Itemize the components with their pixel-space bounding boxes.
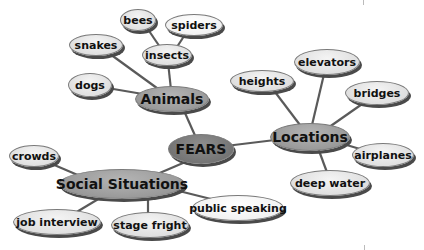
- node-label: crowds: [12, 150, 56, 163]
- node-snakes[interactable]: snakes: [69, 34, 123, 56]
- node-bridges[interactable]: bridges: [345, 81, 409, 105]
- node-fears[interactable]: FEARS: [168, 134, 234, 164]
- node-heights[interactable]: heights: [230, 70, 294, 92]
- node-label: deep water: [295, 177, 365, 190]
- node-label: job interview: [16, 216, 97, 229]
- node-dogs[interactable]: dogs: [68, 73, 112, 97]
- node-label: Social Situations: [56, 176, 188, 192]
- node-label: FEARS: [176, 141, 227, 157]
- node-label: Locations: [272, 129, 348, 145]
- node-label: spiders: [171, 19, 217, 32]
- node-label: stage fright: [113, 219, 186, 232]
- node-crowds[interactable]: crowds: [9, 145, 59, 167]
- node-job-interview[interactable]: job interview: [13, 209, 101, 235]
- node-label: airplanes: [354, 149, 412, 162]
- node-deep-water[interactable]: deep water: [290, 170, 370, 196]
- node-label: snakes: [75, 39, 118, 52]
- crop-mark: [363, 0, 364, 5]
- node-elevators[interactable]: elevators: [294, 49, 360, 75]
- node-airplanes[interactable]: airplanes: [352, 143, 414, 167]
- node-stage-fright[interactable]: stage fright: [111, 212, 189, 238]
- node-label: bees: [123, 14, 152, 27]
- node-label: Animals: [141, 91, 204, 107]
- mind-map-canvas: FEARS Animals Locations Social Situation…: [0, 0, 424, 250]
- node-bees[interactable]: bees: [120, 9, 156, 31]
- node-label: public speaking: [189, 202, 287, 215]
- node-label: elevators: [298, 56, 356, 69]
- node-social-situations[interactable]: Social Situations: [59, 169, 185, 199]
- node-animals[interactable]: Animals: [135, 86, 209, 112]
- crop-mark: [364, 245, 365, 250]
- node-locations[interactable]: Locations: [270, 123, 350, 151]
- node-spiders[interactable]: spiders: [165, 14, 223, 36]
- node-insects[interactable]: insects: [142, 44, 192, 66]
- node-public-speaking[interactable]: public speaking: [192, 195, 284, 221]
- node-label: bridges: [354, 87, 401, 100]
- node-label: insects: [145, 49, 189, 62]
- node-label: dogs: [75, 79, 105, 92]
- node-label: heights: [239, 75, 286, 88]
